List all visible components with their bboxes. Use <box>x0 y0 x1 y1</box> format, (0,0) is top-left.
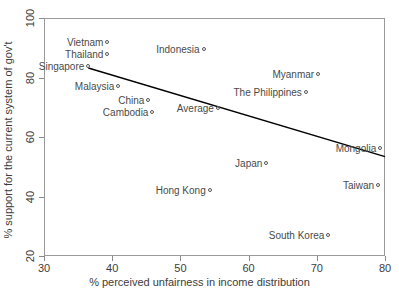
y-tick-80 <box>39 78 44 79</box>
y-tick-label: 80 <box>24 71 36 83</box>
x-tick-label: 70 <box>311 262 323 274</box>
y-tick-label: 40 <box>24 190 36 202</box>
data-point <box>304 90 308 94</box>
data-point-label: Taiwan <box>343 180 374 191</box>
y-tick-label: 100 <box>24 9 36 27</box>
y-tick-40 <box>39 197 44 198</box>
y-tick-label-wrap-20: 20 <box>22 250 38 262</box>
data-point-label: South Korea <box>269 229 325 240</box>
data-point-label: Malaysia <box>75 80 114 91</box>
data-point-label: Myanmar <box>272 68 314 79</box>
data-point <box>146 98 150 102</box>
data-point-label: Thailand <box>65 48 103 59</box>
data-point <box>105 52 109 56</box>
y-tick-label-wrap-60: 60 <box>22 131 38 143</box>
data-point-label: Mongolia <box>336 143 377 154</box>
data-point <box>376 183 380 187</box>
x-tick-label: 50 <box>174 262 186 274</box>
data-point-label: The Philippines <box>234 86 302 97</box>
y-tick-label-wrap-80: 80 <box>22 72 38 84</box>
data-point-label: Indonesia <box>156 43 199 54</box>
y-tick-60 <box>39 137 44 138</box>
data-point <box>378 146 382 150</box>
data-point <box>150 110 154 114</box>
y-tick-label: 60 <box>24 131 36 143</box>
data-point <box>202 47 206 51</box>
chart-figure: 20406080100 304050607080 VietnamThailand… <box>0 0 399 293</box>
data-point-label: Vietnam <box>67 36 104 47</box>
y-axis-label: % support for the current system of gov'… <box>2 41 14 238</box>
x-tick-60 <box>249 256 250 261</box>
data-point <box>105 40 109 44</box>
x-tick-40 <box>112 256 113 261</box>
x-tick-label: 30 <box>38 262 50 274</box>
data-point-label: Hong Kong <box>156 184 206 195</box>
data-point-label: Cambodia <box>103 107 149 118</box>
data-point-label: Average <box>177 103 214 114</box>
data-point <box>316 72 320 76</box>
data-point-label: Japan <box>235 157 262 168</box>
x-tick-label: 40 <box>106 262 118 274</box>
data-point <box>326 233 330 237</box>
x-tick-label: 60 <box>242 262 254 274</box>
y-tick-label: 20 <box>24 250 36 262</box>
x-tick-80 <box>385 256 386 261</box>
x-tick-50 <box>180 256 181 261</box>
y-tick-label-wrap-100: 100 <box>22 12 38 24</box>
x-tick-label: 80 <box>379 262 391 274</box>
y-tick-label-wrap-40: 40 <box>22 191 38 203</box>
data-point <box>116 84 120 88</box>
x-tick-30 <box>44 256 45 261</box>
data-point <box>264 161 268 165</box>
y-axis-label-wrapper: % support for the current system of gov'… <box>0 0 16 293</box>
data-point <box>208 188 212 192</box>
y-tick-100 <box>39 18 44 19</box>
x-tick-70 <box>317 256 318 261</box>
data-point <box>86 64 90 68</box>
data-point <box>216 106 220 110</box>
x-axis-label: % perceived unfairness in income distrib… <box>0 276 399 288</box>
data-point-label: China <box>118 95 144 106</box>
data-point-label: Singapore <box>39 61 85 72</box>
